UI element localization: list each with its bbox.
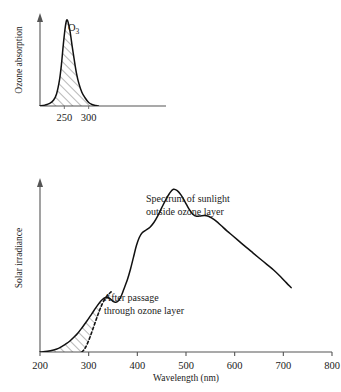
solar-tick-label: 500: [178, 360, 194, 371]
solar-tick-label: 600: [227, 360, 243, 371]
ozone-tick-label: 300: [81, 112, 97, 123]
ozone-tick-label: 250: [56, 112, 72, 123]
figure-container: Ozone absorption 250300 O3 Solar irradia…: [0, 0, 341, 392]
spectra-figure: Ozone absorption 250300 O3 Solar irradia…: [0, 0, 341, 392]
annotation-after-passage-line-2: through ozone layer: [104, 305, 185, 316]
solar-tick-label: 200: [32, 360, 48, 371]
solar-tick-label: 800: [324, 360, 340, 371]
annotation-outside-ozone-line-1: Spectrum of sunlight: [146, 193, 230, 204]
solar-y-axis-label: Solar irradiance: [14, 228, 24, 288]
solar-tick-label: 300: [81, 360, 97, 371]
annotation-after-passage-line-1: After passage: [104, 292, 159, 303]
ozone-y-axis-label: Ozone absorption: [14, 26, 24, 94]
ozone-species-subscript: 3: [76, 27, 80, 36]
solar-x-axis-label: Wavelength (nm): [153, 373, 219, 384]
solar-tick-label: 400: [129, 360, 145, 371]
annotation-outside-ozone-line-2: outside ozone layer: [146, 206, 224, 217]
solar-tick-label: 700: [275, 360, 291, 371]
